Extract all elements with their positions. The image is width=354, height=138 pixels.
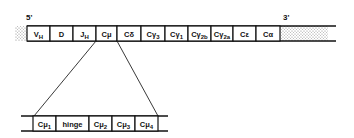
- bottom-strand: Cμ1hingeCμ2Cμ3Cμ4: [21, 116, 168, 131]
- five-prime-flank: [15, 26, 27, 41]
- expansion-line-left: [34, 41, 96, 116]
- top-segment-label: Cε: [240, 30, 249, 39]
- three-prime-label: 3': [283, 13, 289, 22]
- three-prime-flank: [280, 26, 328, 41]
- bottom-segment-label: hinge: [63, 120, 83, 129]
- expansion-line-right: [117, 41, 158, 116]
- top-strand: VHDJHCμCδCγ3Cγ1Cγ2bCγ2aCεCα: [15, 26, 336, 41]
- top-segment-label: Cα: [263, 30, 273, 39]
- top-segment-label: Cδ: [124, 30, 134, 39]
- ig-locus-diagram: VHDJHCμCδCγ3Cγ1Cγ2bCγ2aCεCα 5' 3' Cμ1hin…: [0, 0, 354, 138]
- top-segment-label: D: [59, 30, 65, 39]
- top-segment-label: Cμ: [101, 30, 111, 39]
- five-prime-label: 5': [26, 13, 32, 22]
